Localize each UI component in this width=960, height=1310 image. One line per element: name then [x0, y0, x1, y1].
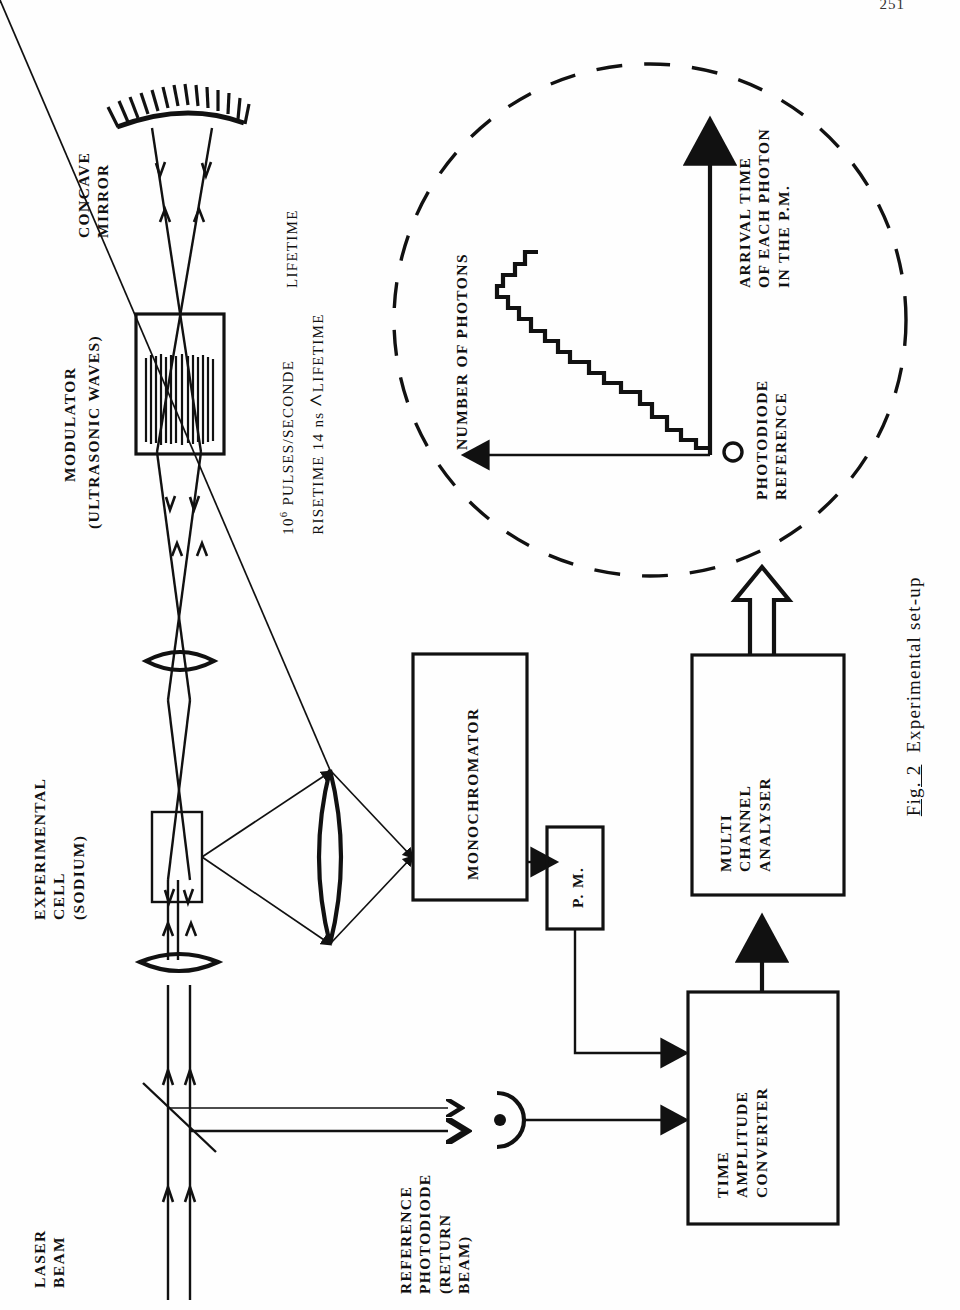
- label-experimental-cell: EXPERIMENTAL CELL (SODIUM): [30, 778, 88, 920]
- lens-upper-icon: [146, 652, 214, 670]
- label-photodiode-reference: PHOTODIODE REFERENCE: [752, 379, 791, 500]
- label-number-of-photons: NUMBER OF PHOTONS: [452, 253, 471, 450]
- label-concave-mirror: CONCAVE MIRROR: [74, 152, 113, 238]
- caption-text: Experimental set-up: [903, 576, 924, 752]
- label-laser-beam: LASER BEAM: [30, 1229, 69, 1288]
- label-time-amplitude-converter: TIME AMPLITUDE CONVERTER: [713, 1087, 771, 1198]
- inset-axes: [468, 128, 742, 461]
- label-modulator: MODULATOR: [60, 367, 79, 482]
- laser-beam-path: [152, 128, 212, 1300]
- mca-output-hollow-arrow: [735, 567, 789, 655]
- figure-vector-drawing: [0, 0, 960, 1310]
- label-multi-channel-analyser: MULTI CHANNEL ANALYSER: [716, 777, 774, 872]
- pm-to-tac-wire: [575, 929, 682, 1053]
- label-pm: P. M.: [568, 867, 587, 908]
- inset-decay-histogram: [497, 252, 709, 448]
- photodiode-icon: [494, 1093, 682, 1147]
- less-than-icon: <: [309, 387, 323, 416]
- spec-risetime-text: RISETIME 14 ns: [310, 412, 326, 535]
- concave-mirror-icon: [108, 84, 249, 127]
- caption-prefix: Fig. 2: [903, 765, 924, 817]
- label-modulator-sub: (ULTRASONIC WAVES): [84, 335, 103, 529]
- spec-lifetime-label: LIFETIME: [283, 209, 302, 288]
- reference-beam-lines: [168, 1108, 448, 1131]
- scanned-page: 251: [0, 0, 960, 1310]
- modulator-box: [136, 314, 224, 454]
- spec-lifetime-text: LIFETIME: [310, 313, 326, 392]
- spec-line-risetime: RISETIME 14 ns <LIFETIME: [283, 313, 349, 555]
- figure-canvas: CONCAVE MIRROR MODULATOR (ULTRASONIC WAV…: [0, 0, 960, 1310]
- label-monochromator: MONOCHROMATOR: [463, 707, 482, 880]
- figure-caption: Fig. 2 Experimental set-up: [878, 576, 949, 840]
- label-reference-photodiode: REFERENCE PHOTODIODE (RETURN BEAM): [396, 1173, 474, 1294]
- beam-splitter-icon: [143, 1083, 216, 1152]
- ultrasonic-waves-hatch: [146, 354, 213, 445]
- label-arrival-time: ARRIVAL TIME OF EACH PHOTON IN THE P.M.: [735, 128, 793, 288]
